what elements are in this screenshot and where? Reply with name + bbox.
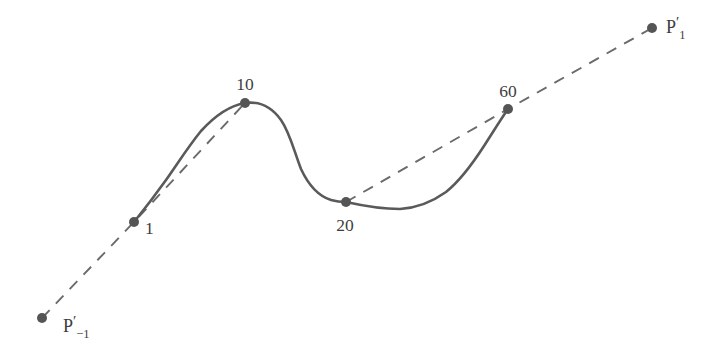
tangent-line-right <box>346 28 652 202</box>
label-knot-10: 10 <box>236 74 254 94</box>
label-p-1-base: P <box>666 17 676 37</box>
label-p-1-sub: 1 <box>679 28 685 42</box>
label-endpoint-p-1: P′1 <box>666 14 686 42</box>
label-p-minus-1-base: P <box>63 316 73 336</box>
label-knot-20: 20 <box>336 215 354 235</box>
point-marker-10 <box>240 98 250 108</box>
spline-curve <box>134 103 508 222</box>
label-p-minus-1-sub: −1 <box>76 327 89 341</box>
point-marker-1 <box>129 217 139 227</box>
label-knot-60: 60 <box>499 81 517 101</box>
label-endpoint-p-minus-1: P′−1 <box>63 313 90 341</box>
point-marker-p-minus-1 <box>37 313 47 323</box>
label-knot-1: 1 <box>145 218 154 238</box>
spline-diagram-canvas: 1 10 20 60 P′−1 P′1 <box>0 0 718 357</box>
point-marker-60 <box>503 104 513 114</box>
point-marker-p-1 <box>647 23 657 33</box>
point-marker-20 <box>341 197 351 207</box>
spline-figure: 1 10 20 60 P′−1 P′1 <box>0 0 718 357</box>
